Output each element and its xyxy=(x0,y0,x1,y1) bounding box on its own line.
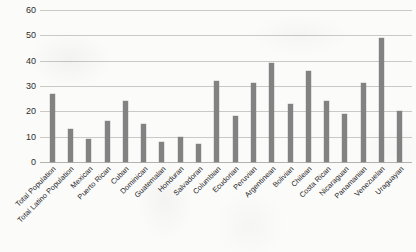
bar xyxy=(105,121,110,162)
bar-slot xyxy=(391,10,409,162)
bar xyxy=(68,129,73,162)
bar-series xyxy=(40,10,412,162)
bar-slot xyxy=(116,10,134,162)
bar-slot xyxy=(61,10,79,162)
bar-chart: 0102030405060 Total PopulationTotal Lati… xyxy=(0,0,416,252)
x-label-slot: Uraguayan xyxy=(391,163,409,252)
bar xyxy=(233,116,238,162)
bar-slot xyxy=(226,10,244,162)
bar xyxy=(86,139,91,162)
y-axis: 0102030405060 xyxy=(0,10,36,162)
bar xyxy=(251,83,256,162)
bar xyxy=(324,101,329,162)
y-axis-tick-label: 0 xyxy=(2,158,36,167)
bar xyxy=(306,71,311,162)
bar-slot xyxy=(134,10,152,162)
bar-slot xyxy=(208,10,226,162)
bar xyxy=(178,137,183,162)
bar xyxy=(361,83,366,162)
y-axis-tick-label: 10 xyxy=(2,132,36,141)
bar xyxy=(214,81,219,162)
bar-slot xyxy=(354,10,372,162)
bar-slot xyxy=(281,10,299,162)
bar-slot xyxy=(263,10,281,162)
bar xyxy=(269,63,274,162)
bar-slot xyxy=(43,10,61,162)
y-axis-tick-label: 50 xyxy=(2,31,36,40)
bar-slot xyxy=(80,10,98,162)
bar-slot xyxy=(317,10,335,162)
bar xyxy=(397,111,402,162)
bar xyxy=(141,124,146,162)
bar xyxy=(123,101,128,162)
plot-area xyxy=(40,10,412,162)
y-axis-tick-label: 60 xyxy=(2,6,36,15)
bar xyxy=(196,144,201,162)
bar xyxy=(288,104,293,162)
bar-slot xyxy=(189,10,207,162)
bar xyxy=(50,94,55,162)
bar xyxy=(379,38,384,162)
x-axis-category-labels: Total PopulationTotal Latino PopulationM… xyxy=(40,163,412,252)
y-axis-tick-label: 30 xyxy=(2,82,36,91)
bar-slot xyxy=(299,10,317,162)
y-axis-tick-label: 20 xyxy=(2,107,36,116)
bar-slot xyxy=(153,10,171,162)
bar-slot xyxy=(372,10,390,162)
y-axis-tick-label: 40 xyxy=(2,56,36,65)
bar xyxy=(342,114,347,162)
bar-slot xyxy=(244,10,262,162)
bar-slot xyxy=(336,10,354,162)
bar-slot xyxy=(171,10,189,162)
bar xyxy=(159,142,164,162)
bar-slot xyxy=(98,10,116,162)
